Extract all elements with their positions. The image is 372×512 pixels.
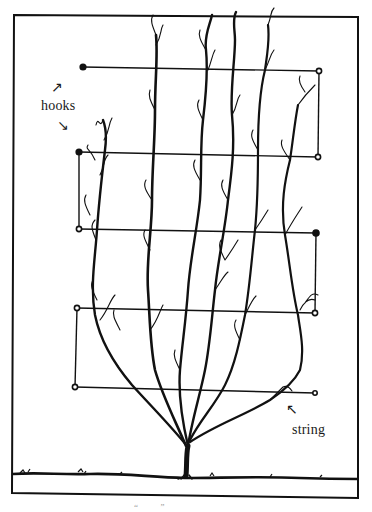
tree xyxy=(85,8,318,479)
string-label: string xyxy=(292,422,325,438)
branch-left-outer xyxy=(93,120,187,446)
hook-icon xyxy=(74,305,79,310)
hook-icon xyxy=(72,384,77,389)
caption-marks: “ ” xyxy=(134,502,165,512)
trunk xyxy=(186,446,188,476)
hook-icon xyxy=(316,68,321,73)
hooks-arrow-up-icon: ↗ xyxy=(51,80,63,94)
hook-icon xyxy=(312,310,317,315)
string-arrow-icon: ↖ xyxy=(286,402,298,416)
hook-icon xyxy=(80,64,86,70)
hook-icon xyxy=(315,154,320,159)
hooks-label: hooks xyxy=(41,98,75,114)
hook-icon xyxy=(76,149,82,155)
hooks-arrow-down-icon: ↘ xyxy=(57,118,69,132)
espalier-diagram: ↗ hooks ↘ ↖ string “ ” xyxy=(0,0,372,512)
hook-icon xyxy=(76,226,81,231)
hook-icon xyxy=(313,391,317,395)
hook-icon xyxy=(313,230,319,236)
